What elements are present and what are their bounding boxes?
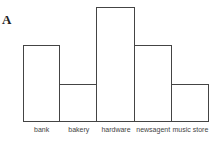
bar-newsagent xyxy=(134,45,172,122)
panel-label: A xyxy=(2,12,11,28)
x-tick-label: bank xyxy=(23,126,60,133)
bar-music-store xyxy=(171,84,209,122)
x-tick-label: bakery xyxy=(60,126,97,133)
bar-hardware xyxy=(96,7,134,122)
bar-bank xyxy=(23,45,60,122)
bar-bakery xyxy=(59,84,97,122)
x-axis-labels: bankbakeryhardwarenewsagentmusic store xyxy=(23,126,209,140)
bar-plot-area xyxy=(23,0,209,122)
x-tick-label: music store xyxy=(172,126,209,133)
x-tick-label: newsagent xyxy=(135,126,172,133)
x-tick-label: hardware xyxy=(97,126,134,133)
